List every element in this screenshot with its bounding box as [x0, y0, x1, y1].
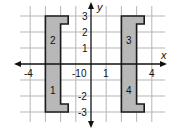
y-tick-label: 1 — [82, 43, 88, 54]
y-axis-label: y — [96, 1, 104, 13]
y-tick-label: 2 — [82, 27, 88, 38]
region-label-2: 2 — [50, 35, 56, 46]
region-label-4: 4 — [126, 85, 132, 96]
region-label-3: 3 — [126, 35, 132, 46]
x-axis-label: x — [160, 49, 167, 61]
x-tick-label: 4 — [149, 68, 155, 79]
y-axis-top-arrow-icon — [88, 2, 94, 9]
coordinate-plane: y x -4 -1 0 1 4 3 2 1 -2 -3 2 1 3 4 — [0, 0, 177, 133]
region-label-1: 1 — [50, 85, 56, 96]
y-tick-label: -2 — [78, 91, 87, 102]
y-tick-label: -3 — [78, 107, 87, 118]
x-axis-left-arrow-icon — [14, 61, 21, 67]
x-tick-label: -1 — [72, 68, 81, 79]
x-tick-label: -4 — [24, 68, 33, 79]
y-axis-bottom-arrow-icon — [88, 121, 94, 128]
x-axis-right-arrow-icon — [160, 61, 167, 67]
x-tick-label: 1 — [103, 68, 109, 79]
y-tick-label: 3 — [82, 11, 88, 22]
origin-label: 0 — [81, 68, 87, 79]
